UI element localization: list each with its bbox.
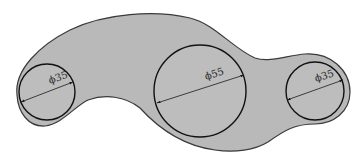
- left-hole: ϕ35: [19, 64, 75, 120]
- right-hole-circle: [286, 62, 344, 120]
- middle-hole: ϕ55: [154, 45, 246, 137]
- technical-drawing: ϕ35 ϕ55 ϕ35: [0, 0, 357, 163]
- right-hole: ϕ35: [286, 62, 344, 120]
- middle-hole-circle: [154, 45, 246, 137]
